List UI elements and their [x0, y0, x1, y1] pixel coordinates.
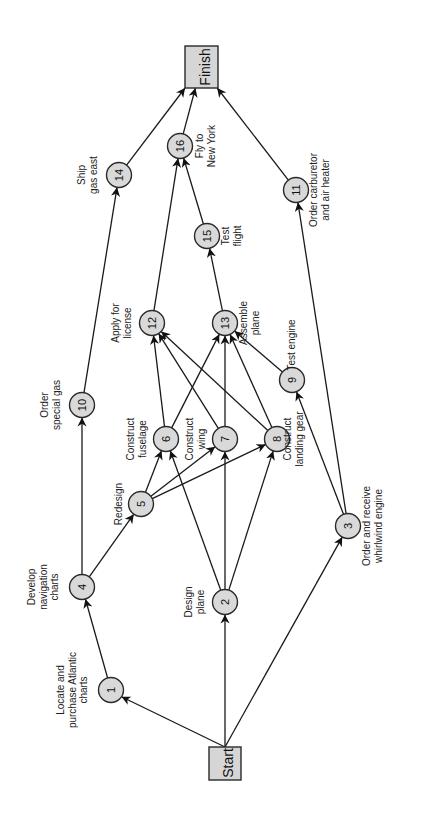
finish-node: Finish	[185, 46, 218, 88]
activity-node-2: 2	[213, 590, 238, 615]
edge-7-to-12	[159, 334, 219, 429]
label-line: special gas	[51, 380, 62, 430]
label-line: Test engine	[286, 319, 297, 371]
label-line: whirlwind engine	[373, 489, 384, 564]
activity-node-11: 11	[284, 178, 309, 203]
edge-start-to-3	[225, 537, 342, 747]
edge-16-to-finish	[183, 88, 195, 134]
label-line: gas east	[88, 156, 99, 194]
label-line: New York	[206, 124, 217, 167]
activity-label-9: Test engine	[286, 319, 297, 371]
edge-1-to-4	[85, 599, 107, 678]
label-line: Develop	[26, 568, 37, 605]
label-line: Order carburetor	[308, 152, 319, 227]
label-line: Apply for	[110, 303, 121, 343]
label-line: Redesign	[113, 483, 124, 525]
activity-node-15: 15	[195, 224, 220, 249]
label-line: Order and receive	[361, 486, 372, 566]
start-node: Start	[209, 747, 241, 780]
activity-node-14: 14	[107, 163, 132, 188]
finish-label: Finish	[197, 48, 213, 85]
edge-6-to-12	[153, 335, 164, 426]
label-line: plane	[195, 589, 206, 614]
node-number: 2	[219, 599, 231, 605]
label-line: flight	[232, 225, 243, 246]
label-line: charts	[49, 573, 60, 600]
label-line: wing	[196, 429, 207, 451]
label-line: navigation	[38, 564, 49, 610]
node-number: 4	[76, 584, 88, 590]
activity-label-15: Testflight	[220, 225, 243, 246]
activity-label-8: Constructlanding gear	[282, 411, 305, 467]
edge-13-to-15	[210, 248, 223, 311]
edge-start-to-1	[122, 697, 225, 747]
node-number: 3	[342, 523, 354, 529]
label-line: landing gear	[294, 411, 305, 467]
edge-12-to-16	[154, 158, 178, 310]
edge-10-to-14	[84, 187, 117, 392]
label-line: Test	[220, 227, 231, 246]
label-line: Construct	[282, 417, 293, 460]
label-line: plane	[250, 310, 261, 335]
label-line: and air heater	[320, 158, 331, 220]
edge-5-to-8	[152, 444, 265, 498]
node-number: 13	[219, 317, 231, 329]
edge-2-to-6	[170, 451, 220, 590]
edge-2-to-8	[229, 451, 273, 590]
activity-node-10: 10	[70, 393, 95, 418]
edge-3-to-11	[298, 202, 346, 513]
activity-node-4: 4	[70, 575, 95, 600]
activity-node-5: 5	[129, 492, 154, 517]
edge-11-to-finish	[217, 88, 288, 180]
activity-network-diagram: Finish Start 12345678910111213141516 Loc…	[0, 0, 434, 814]
activity-label-16: Fly toNew York	[194, 124, 217, 167]
activity-label-12: Apply forlicense	[110, 303, 133, 343]
activity-label-5: Redesign	[113, 483, 124, 525]
edge-8-to-13	[230, 334, 272, 427]
label-line: fuselage	[137, 420, 148, 458]
label-line: Fly to	[194, 133, 205, 158]
node-number: 10	[76, 399, 88, 411]
node-number: 6	[160, 436, 172, 442]
activity-label-3: Order and receivewhirlwind engine	[361, 486, 384, 566]
activity-node-13: 13	[213, 311, 238, 336]
label-line: Construct	[184, 417, 195, 460]
node-number: 14	[113, 169, 125, 181]
node-number: 12	[146, 317, 158, 329]
activity-label-4: Developnavigationcharts	[26, 564, 60, 610]
node-number: 1	[105, 687, 117, 693]
activity-node-16: 16	[168, 134, 193, 159]
node-number: 11	[290, 184, 302, 195]
node-number: 5	[135, 501, 147, 507]
label-line: Order	[39, 392, 50, 418]
activity-node-1: 1	[99, 678, 124, 703]
label-line: license	[122, 307, 133, 339]
label-line: Ship	[76, 165, 87, 185]
activity-label-11: Order carburetorand air heater	[308, 152, 331, 227]
node-number: 15	[201, 230, 213, 242]
label-line: Assemble	[238, 301, 249, 345]
node-number: 16	[174, 140, 186, 152]
label-line: charts	[78, 676, 89, 703]
activity-node-7: 7	[213, 427, 238, 452]
label-line: Locate and	[55, 665, 66, 715]
activity-label-14: Shipgas east	[76, 156, 99, 194]
node-number: 7	[219, 436, 231, 442]
edge-4-to-5	[89, 514, 134, 577]
activity-node-12: 12	[140, 311, 165, 336]
activity-node-3: 3	[336, 514, 361, 539]
label-line: purchase Atlantic	[67, 652, 78, 728]
edge-5-to-6	[145, 451, 161, 493]
edge-15-to-16	[184, 158, 204, 224]
activity-node-6: 6	[154, 427, 179, 452]
activity-label-2: Designplane	[183, 586, 206, 617]
activity-label-1: Locate andpurchase Atlanticcharts	[55, 652, 89, 728]
activity-label-10: Orderspecial gas	[39, 380, 62, 430]
activity-label-6: Constructfuselage	[125, 417, 148, 460]
node-number: 9	[286, 377, 298, 383]
labels-layer: Locate andpurchase AtlanticchartsDesignp…	[26, 124, 384, 728]
label-line: Construct	[125, 417, 136, 460]
label-line: Design	[183, 586, 194, 617]
start-label: Start	[220, 748, 236, 778]
activity-label-7: Constructwing	[184, 417, 207, 460]
